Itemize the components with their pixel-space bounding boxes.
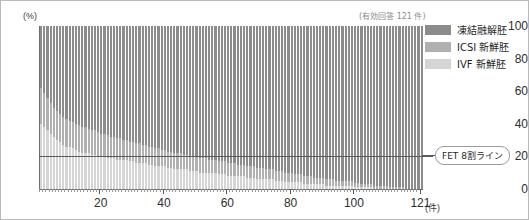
bar-segment (249, 178, 251, 189)
bar-segment (167, 152, 169, 168)
bar-segment (272, 169, 274, 179)
bar-segment (192, 26, 194, 156)
bar-segment (107, 135, 109, 158)
bar-segment (224, 161, 226, 174)
bar-segment (262, 168, 264, 179)
bar-segment (72, 122, 74, 148)
bar-segment (161, 26, 163, 150)
x-axis-tick-marks (39, 189, 422, 193)
bar-segment (97, 26, 99, 132)
bar-segment (246, 26, 248, 166)
bar-segment (97, 132, 99, 156)
bar-segment (291, 173, 293, 183)
bar-segment (62, 26, 64, 117)
bar-segment (91, 130, 93, 154)
bar-segment (126, 160, 128, 189)
bar-segment (180, 169, 182, 189)
chart-legend: 凍結融解胚ICSI 新鮮胚IVF 新鮮胚 (425, 22, 526, 73)
bar-segment (84, 153, 86, 189)
bar-segment (354, 26, 356, 182)
bar-segment (183, 26, 185, 155)
legend-item-label: IVF 新鮮胚 (457, 56, 506, 71)
legend-item-label: 凍結融解胚 (457, 22, 507, 37)
bar-segment (173, 26, 175, 153)
bar-segment (164, 166, 166, 189)
bar-segment (176, 26, 178, 153)
bar-segment (208, 160, 210, 173)
bar-segment (53, 108, 55, 137)
bar-segment (94, 155, 96, 189)
bar-segment (364, 26, 366, 184)
bar-segment (291, 26, 293, 173)
bar-segment (148, 165, 150, 189)
sample-size-note: (有効回答 121 件) (359, 10, 426, 21)
fet-reference-label: FET 8割ライン (435, 146, 510, 165)
bar-segment (65, 147, 67, 189)
bar-segment (43, 26, 45, 93)
y-tick-label: 60 (494, 85, 528, 97)
bar-segment (167, 168, 169, 189)
bar-segment (297, 26, 299, 174)
bar-segment (300, 26, 302, 174)
bar-segment (278, 171, 280, 181)
bar-segment (170, 26, 172, 152)
bar-segment (154, 26, 156, 148)
bar-segment (214, 173, 216, 189)
bar-segment (281, 181, 283, 189)
bar-segment (78, 125, 80, 151)
bar-segment (126, 26, 128, 140)
bar-segment (249, 26, 251, 166)
bar-segment (154, 166, 156, 189)
bar-segment (211, 173, 213, 189)
bar-segment (221, 26, 223, 161)
bar-segment (268, 26, 270, 169)
bar-segment (59, 26, 61, 114)
bar-segment (202, 26, 204, 158)
bar-segment (142, 163, 144, 189)
bar-segment (240, 165, 242, 176)
bar-segment (256, 26, 258, 168)
bar-segment (113, 158, 115, 189)
bar-segment (205, 158, 207, 173)
fet-reference-line (39, 156, 433, 157)
legend-swatch (425, 42, 451, 52)
x-tick-label: 80 (284, 197, 297, 209)
bar-segment (142, 26, 144, 145)
bar-segment (72, 26, 74, 122)
bar-segment (135, 163, 137, 189)
bar-segment (186, 169, 188, 189)
bar-segment (113, 137, 115, 158)
bar-segment (161, 150, 163, 166)
bar-segment (237, 176, 239, 189)
bar-segment (46, 26, 48, 98)
bar-segment (97, 156, 99, 189)
bar-segment (246, 178, 248, 189)
y-axis-unit-label: (%) (23, 11, 37, 21)
x-tick-mark (420, 189, 423, 194)
bar-segment (103, 26, 105, 134)
bar-segment (287, 26, 289, 173)
bar-segment (176, 169, 178, 189)
bar-segment (94, 130, 96, 154)
bar-segment (195, 156, 197, 171)
bar-segment (205, 173, 207, 189)
bar-segment (186, 26, 188, 155)
legend-item: IVF 新鮮胚 (425, 56, 526, 71)
bar-segment (170, 152, 172, 168)
bar-segment (199, 158, 201, 173)
bar-segment (138, 163, 140, 189)
bar-segment (78, 26, 80, 125)
bar-segment (46, 130, 48, 189)
bar-segment (268, 179, 270, 189)
bar-segment (199, 173, 201, 189)
bar-segment (192, 171, 194, 189)
bar-segment (272, 179, 274, 189)
bar-segment (268, 169, 270, 179)
bar-segment (214, 160, 216, 173)
bar-segment (91, 155, 93, 189)
bar-segment (50, 134, 52, 189)
bar-segment (221, 161, 223, 174)
bar-segment (233, 176, 235, 189)
bar-segment (294, 174, 296, 182)
bar-segment (275, 171, 277, 181)
